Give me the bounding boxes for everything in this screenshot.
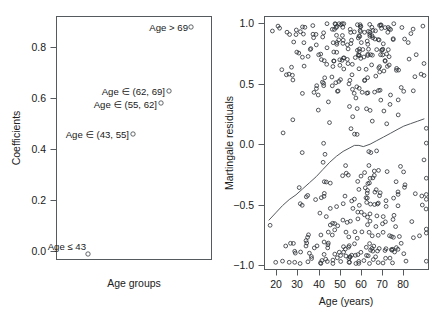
residual-point [378, 70, 382, 74]
point-label-age-55-62: Age ∈ (55, 62] [94, 99, 157, 110]
residual-point [330, 75, 334, 79]
residual-point [325, 46, 329, 50]
residual-point [376, 261, 380, 265]
x-ticklabel-20: 20 [270, 278, 282, 290]
residual-point [346, 43, 350, 47]
residual-point [424, 141, 428, 145]
data-point-marker [167, 89, 171, 93]
residual-point [384, 205, 388, 209]
residual-point [394, 225, 398, 229]
residual-point [353, 132, 357, 136]
residual-point [341, 218, 345, 222]
residual-point [306, 55, 310, 59]
residual-point [363, 30, 367, 34]
y-ticklabel-0.4: 0.4 [31, 143, 46, 155]
residual-point [344, 164, 348, 168]
residual-point [381, 215, 385, 219]
residual-point [412, 236, 416, 240]
coefficients-panel: 0.8 0.6 0.4 0.2 0.0 Coefficients Age gro… [0, 0, 221, 319]
residual-point [375, 214, 379, 218]
residual-point [424, 207, 428, 211]
y-axis-ticklabels: 0.8 0.6 0.4 0.2 0.0 [31, 41, 46, 257]
residual-point [318, 211, 322, 215]
residual-point [274, 260, 278, 264]
residual-point [418, 234, 422, 238]
y-axis-label: Martingale residuals [223, 96, 235, 190]
residual-point [316, 108, 320, 112]
residual-point [351, 87, 355, 91]
residual-point [349, 127, 353, 131]
residual-point [341, 25, 345, 29]
residual-point [359, 174, 363, 178]
residual-point [374, 225, 378, 229]
residual-point [280, 68, 284, 72]
residual-point [420, 194, 424, 198]
residual-point [299, 250, 303, 254]
residual-point [353, 242, 357, 246]
residual-point [371, 258, 375, 262]
x-ticklabel-80: 80 [397, 278, 409, 290]
residual-point [399, 165, 403, 169]
martingale-panel: 1.0 0.5 0.0 −0.5 −1.0 20 30 40 50 [221, 0, 442, 319]
x-axis-label: Age groups [107, 277, 161, 289]
residual-point [424, 231, 428, 235]
residual-point [294, 33, 298, 37]
residual-point [410, 220, 414, 224]
y-axis-ticklabels: 1.0 0.5 0.0 −0.5 −1.0 [233, 17, 254, 271]
residual-point [376, 233, 380, 237]
residual-point [312, 246, 316, 250]
plot-frame [265, 17, 429, 270]
residual-point [328, 121, 332, 125]
point-label-age-le-43: Age ≤ 43 [48, 241, 86, 252]
residual-point [384, 199, 388, 203]
residual-point [342, 67, 346, 71]
residual-point [402, 252, 406, 256]
residual-point [391, 261, 395, 265]
residual-point [384, 256, 388, 260]
residual-point [396, 98, 400, 102]
residual-point [307, 233, 311, 237]
residual-point [321, 35, 325, 39]
x-ticklabel-70: 70 [376, 278, 388, 290]
data-point-marker [131, 132, 135, 136]
residual-point [351, 115, 355, 119]
residual-point [303, 25, 307, 29]
residual-point [366, 76, 370, 80]
residual-point [394, 180, 398, 184]
residual-point [398, 235, 402, 239]
residual-point [388, 256, 392, 260]
residual-point [335, 205, 339, 209]
residual-point [404, 259, 408, 263]
residual-point [338, 63, 342, 67]
residual-point [328, 181, 332, 185]
data-point-marker [189, 25, 193, 29]
y-ticklabel-neg1.0: −1.0 [233, 259, 254, 271]
residual-point [328, 207, 332, 211]
residual-point [424, 176, 428, 180]
residual-point [368, 242, 372, 246]
residual-point [354, 96, 358, 100]
figure-root: 0.8 0.6 0.4 0.2 0.0 Coefficients Age gro… [0, 0, 442, 319]
residual-point [384, 220, 388, 224]
residual-point [357, 203, 361, 207]
residual-point [325, 22, 329, 26]
residual-point [355, 107, 359, 111]
residual-point [392, 213, 396, 217]
residual-point [271, 29, 275, 33]
y-ticklabel-neg0.5: −0.5 [233, 199, 254, 211]
y-ticklabel-0.2: 0.2 [31, 194, 46, 206]
residual-point [368, 212, 372, 216]
residual-point [293, 260, 297, 264]
residual-point [381, 42, 385, 46]
residual-point [284, 244, 288, 248]
residual-point [338, 58, 342, 62]
residual-point [414, 53, 418, 57]
residual-point [345, 221, 349, 225]
martingale-plot-svg: 1.0 0.5 0.0 −0.5 −1.0 20 30 40 50 [221, 0, 442, 319]
residual-point [322, 31, 326, 35]
x-ticklabel-30: 30 [291, 278, 303, 290]
residual-point [314, 43, 318, 47]
y-ticklabel-0.8: 0.8 [31, 41, 46, 53]
residual-point [381, 261, 385, 265]
residual-point [319, 233, 323, 237]
